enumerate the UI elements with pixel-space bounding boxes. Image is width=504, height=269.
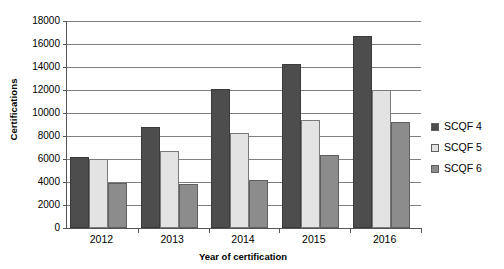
x-axis-tick-label: 2015 (278, 234, 349, 245)
y-axis-tick-label: 14000 (18, 62, 60, 72)
bar (320, 155, 339, 228)
legend-item: SCQF 4 (431, 116, 482, 137)
bar (391, 122, 410, 228)
legend-swatch-icon (431, 165, 439, 173)
bar-group (138, 21, 209, 228)
x-axis-tick-mark (209, 228, 210, 233)
legend-label: SCQF 4 (444, 121, 482, 132)
bar (249, 180, 268, 228)
bar (108, 183, 127, 228)
x-axis-tick-label: 2016 (349, 234, 420, 245)
bar-group (67, 21, 138, 228)
bar (179, 184, 198, 228)
y-axis-tick-label: 12000 (18, 85, 60, 95)
x-axis-tick-label: 2013 (137, 234, 208, 245)
chart-legend: SCQF 4SCQF 5SCQF 6 (431, 116, 482, 179)
bar-group (209, 21, 280, 228)
x-axis-tick-label: 2014 (208, 234, 279, 245)
bar (70, 157, 89, 228)
plot-area (66, 21, 421, 229)
legend-swatch-icon (431, 123, 439, 131)
x-axis-title: Year of certification (66, 251, 420, 262)
bar (230, 133, 249, 228)
x-axis-tick-mark (421, 228, 422, 233)
legend-item: SCQF 6 (431, 158, 482, 179)
bar-group (279, 21, 350, 228)
bar-chart: Certifications 1800016000140001200010000… (0, 0, 504, 269)
legend-swatch-icon (431, 144, 439, 152)
y-axis-tick-label: 16000 (18, 39, 60, 49)
legend-item: SCQF 5 (431, 137, 482, 158)
y-axis-tick-mark (63, 228, 67, 229)
y-axis-tick-label: 4000 (18, 177, 60, 187)
y-axis-tick-label: 18000 (18, 16, 60, 26)
x-axis-tick-mark (138, 228, 139, 233)
bar (353, 36, 372, 228)
y-axis-tick-label: 8000 (18, 131, 60, 141)
bar (372, 90, 391, 228)
bar-group (350, 21, 421, 228)
legend-label: SCQF 5 (444, 142, 482, 153)
x-axis-tick-label: 2012 (66, 234, 137, 245)
y-axis-title: Certifications (8, 50, 19, 170)
y-axis-tick-label: 10000 (18, 108, 60, 118)
bar (211, 89, 230, 228)
y-axis-tick-label: 2000 (18, 200, 60, 210)
legend-label: SCQF 6 (444, 163, 482, 174)
bar (282, 64, 301, 228)
x-axis-tick-mark (350, 228, 351, 233)
bar (89, 159, 108, 228)
y-axis-tick-label: 6000 (18, 154, 60, 164)
y-axis-tick-label: 0 (18, 223, 60, 233)
bar (301, 120, 320, 228)
bar (160, 151, 179, 228)
bar (141, 127, 160, 228)
y-axis-tick-labels: 1800016000140001200010000800060004000200… (18, 21, 60, 228)
x-axis-tick-mark (279, 228, 280, 233)
